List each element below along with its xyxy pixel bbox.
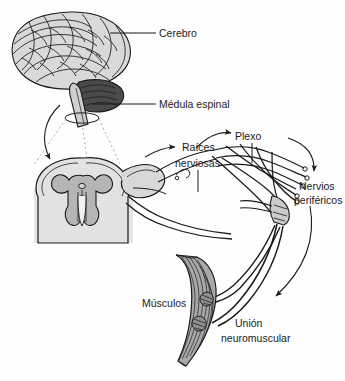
root-branch-tip	[175, 176, 179, 180]
label-nervios-line2: periféricos	[294, 194, 342, 206]
ventral-root-shape2	[126, 203, 232, 239]
muscle-group	[175, 255, 216, 366]
central-canal	[79, 183, 86, 188]
spinal-cord-group	[34, 158, 133, 243]
raices-arrow	[145, 147, 175, 157]
label-cerebro: Cerebro	[159, 27, 197, 39]
label-plexo: Plexo	[235, 130, 261, 142]
magnification-arrow	[45, 105, 60, 159]
peripheral-nerve-group	[212, 196, 289, 326]
label-union-line1: Unión	[235, 317, 263, 329]
ventral-root-shape	[128, 196, 231, 234]
label-union-line2: neuromuscular	[221, 332, 291, 344]
diagram-canvas: Cerebro Médula espinal Raíces nerviosas …	[0, 0, 345, 381]
label-medula-espinal: Médula espinal	[159, 98, 230, 110]
nerve-branch-left	[240, 201, 272, 206]
anatomical-diagram: Cerebro Médula espinal Raíces nerviosas …	[0, 0, 345, 381]
brain-group	[12, 12, 130, 127]
label-nervios-line1: Nervios	[299, 180, 335, 192]
peripheral-nerve-2	[212, 225, 275, 298]
muscle-shape	[176, 255, 216, 366]
label-raices-line1: Raíces	[182, 141, 215, 153]
nerve-sheath-collar	[270, 196, 289, 225]
plexus-group	[212, 144, 306, 223]
dorsal-root-shape	[121, 165, 164, 198]
label-raices-line2: nerviosas	[175, 157, 220, 169]
label-musculos: Músculos	[142, 297, 186, 309]
